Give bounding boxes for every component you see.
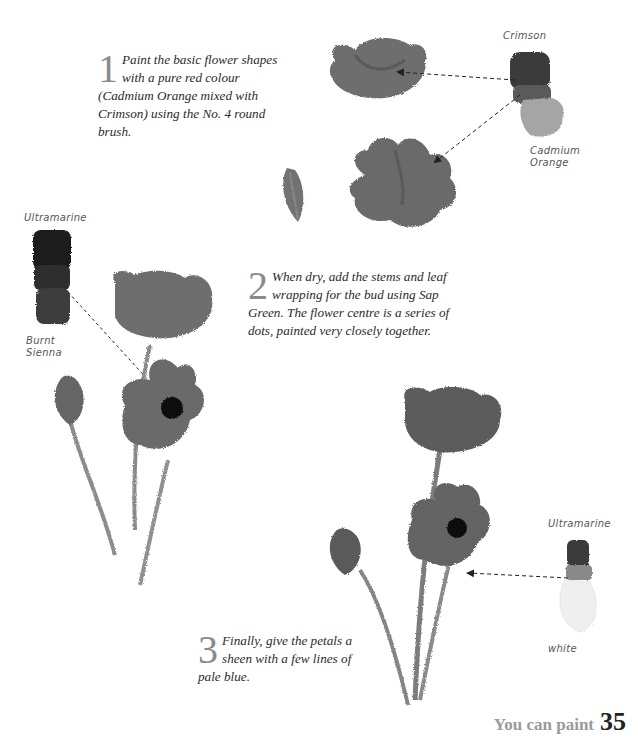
step-3-instruction: 3 Finally, give the petals a sheen with … [198,632,363,686]
step1-cup-flower-shape [330,38,426,98]
label-ultramarine-step2: Ultramarine [24,212,87,224]
step-text: Finally, give the petals a sheen with a … [198,633,352,684]
step1-open-flower-shape [350,138,456,227]
step1-paint-swatch [510,52,564,136]
step-number: 3 [198,634,218,666]
step-1-instruction: 1 Paint the basic flower shapes with a p… [98,51,283,141]
step-2-instruction: 2 When dry, add the stems and leaf wrapp… [248,268,473,340]
step-number: 2 [248,270,268,302]
label-crimson: Crimson [503,30,546,42]
step2-flower-group [55,271,213,585]
label-ultramarine-step3: Ultramarine [548,518,611,530]
pointer-line-ultramarine-step3 [468,573,568,578]
label-white: white [548,643,577,655]
step2-paint-swatch [33,230,71,324]
page-number: 35 [600,707,626,736]
page-footer: You can paint35 [494,707,626,737]
step-text: Paint the basic flower shapes with a pur… [98,52,277,139]
label-cadmium-orange: Cadmium Orange [530,145,590,169]
label-burnt-sienna: Burnt Sienna [26,335,71,359]
step3-paint-swatch [560,540,596,632]
step-text: When dry, add the stems and leaf wrappin… [248,269,449,338]
step1-bud-shape [283,168,303,222]
pointer-line-cadmium [435,95,520,162]
step-number: 1 [98,53,118,85]
running-title: You can paint [494,715,594,734]
